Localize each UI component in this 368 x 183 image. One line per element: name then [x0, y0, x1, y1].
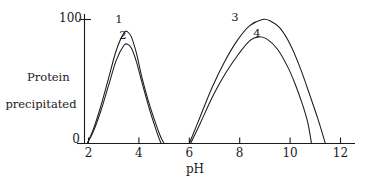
x-tick-label-6: 6 [177, 147, 201, 161]
x-tick-label-8: 8 [228, 147, 252, 161]
y-tick-label-0: 0 [62, 133, 80, 147]
curve-label-1: 1 [111, 13, 127, 26]
chart-figure: Protein precipitated 100 0 2 4 6 8 10 12… [0, 0, 368, 183]
curve-2 [87, 44, 161, 144]
curve-label-2: 2 [115, 29, 131, 42]
x-tick-label-12: 12 [329, 147, 353, 161]
x-tick-label-4: 4 [127, 147, 151, 161]
curve-4 [191, 37, 312, 144]
x-axis-label: pH [175, 163, 215, 177]
y-tick-label-100: 100 [58, 12, 82, 26]
curve-1 [87, 31, 164, 143]
x-tick-label-10: 10 [278, 147, 302, 161]
x-tick-label-2: 2 [77, 147, 101, 161]
curve-label-3: 3 [227, 11, 243, 24]
curve-label-4: 4 [249, 27, 265, 40]
y-axis-label: Protein precipitated [4, 58, 78, 137]
